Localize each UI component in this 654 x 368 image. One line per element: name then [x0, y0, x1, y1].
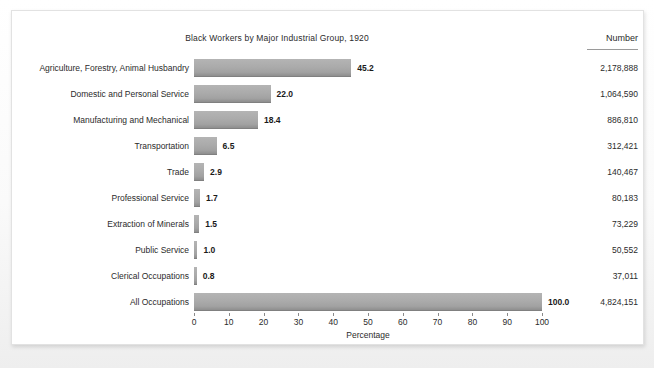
x-axis-tick-label: 40: [318, 317, 348, 327]
bar: [194, 111, 258, 129]
category-label: Public Service: [135, 237, 189, 263]
bar-value-label: 2.9: [210, 163, 222, 181]
x-axis-tick: [542, 313, 543, 316]
bar-container: 45.2: [194, 59, 351, 77]
bar-value-label: 1.5: [205, 215, 217, 233]
bar-value-label: 45.2: [357, 59, 374, 77]
x-axis-tick: [472, 313, 473, 316]
x-axis-tick: [438, 313, 439, 316]
chart-row: Clerical Occupations0.837,011: [194, 263, 642, 289]
bar-container: 1.5: [194, 215, 199, 233]
chart-row: Trade2.9140,467: [194, 159, 642, 185]
bar: [194, 59, 351, 77]
bar-container: 1.0: [194, 241, 197, 259]
x-axis-tick-label: 70: [423, 317, 453, 327]
number-column-rule: [587, 49, 638, 50]
x-axis-tick-label: 0: [179, 317, 209, 327]
bar-value-label: 18.4: [264, 111, 281, 129]
chart-title: Black Workers by Major Industrial Group,…: [12, 33, 542, 43]
bar: [194, 293, 542, 311]
bar-value-label: 1.7: [206, 189, 218, 207]
x-axis-tick: [298, 313, 299, 316]
category-label: Domestic and Personal Service: [70, 81, 189, 107]
number-column-header: Number: [548, 33, 646, 43]
x-axis-tick-label: 60: [388, 317, 418, 327]
row-number-value: 1,064,590: [548, 81, 646, 107]
category-label: Clerical Occupations: [111, 263, 189, 289]
category-label: Transportation: [135, 133, 190, 159]
chart-row: Professional Service1.780,183: [194, 185, 642, 211]
row-number-value: 140,467: [548, 159, 646, 185]
bar: [194, 85, 271, 103]
bar: [194, 163, 204, 181]
row-number-value: 50,552: [548, 237, 646, 263]
bar: [194, 189, 200, 207]
chart-row: Domestic and Personal Service22.01,064,5…: [194, 81, 642, 107]
chart-row: Public Service1.050,552: [194, 237, 642, 263]
x-axis-tick-label: 90: [492, 317, 522, 327]
row-number-value: 73,229: [548, 211, 646, 237]
x-axis-tick: [333, 313, 334, 316]
chart-row: Transportation6.5312,421: [194, 133, 642, 159]
x-axis: Percentage 0102030405060708090100: [194, 313, 542, 343]
bar-container: 1.7: [194, 189, 200, 207]
bar: [194, 137, 217, 155]
bar-container: 0.8: [194, 267, 197, 285]
chart-row: All Occupations100.04,824,151: [194, 289, 642, 315]
category-label: Extraction of Minerals: [107, 211, 189, 237]
x-axis-title: Percentage: [194, 330, 542, 340]
category-label: Agriculture, Forestry, Animal Husbandry: [39, 55, 189, 81]
x-axis-tick-label: 100: [527, 317, 557, 327]
bar-value-label: 22.0: [277, 85, 294, 103]
category-label: Professional Service: [112, 185, 189, 211]
category-label: All Occupations: [130, 289, 189, 315]
bar: [194, 215, 199, 233]
chart-row: Agriculture, Forestry, Animal Husbandry4…: [194, 55, 642, 81]
bar-container: 6.5: [194, 137, 217, 155]
bar-container: 2.9: [194, 163, 204, 181]
x-axis-tick-label: 50: [353, 317, 383, 327]
bar-container: 100.0: [194, 293, 542, 311]
x-axis-tick: [368, 313, 369, 316]
bar-value-label: 1.0: [203, 241, 215, 259]
category-label: Manufacturing and Mechanical: [73, 107, 189, 133]
page-background: Black Workers by Major Industrial Group,…: [0, 0, 654, 368]
chart-card: Black Workers by Major Industrial Group,…: [11, 10, 644, 345]
chart-row: Manufacturing and Mechanical18.4886,810: [194, 107, 642, 133]
x-axis-tick: [194, 313, 195, 316]
bar-container: 18.4: [194, 111, 258, 129]
x-axis-tick: [264, 313, 265, 316]
x-axis-tick-label: 20: [249, 317, 279, 327]
row-number-value: 2,178,888: [548, 55, 646, 81]
bar-value-label: 6.5: [223, 137, 235, 155]
bar-container: 22.0: [194, 85, 271, 103]
chart-row: Extraction of Minerals1.573,229: [194, 211, 642, 237]
x-axis-tick: [507, 313, 508, 316]
x-axis-tick: [403, 313, 404, 316]
x-axis-tick: [229, 313, 230, 316]
x-axis-tick-label: 30: [283, 317, 313, 327]
bar: [194, 241, 197, 259]
row-number-value: 312,421: [548, 133, 646, 159]
category-label: Trade: [167, 159, 189, 185]
bar-value-label: 0.8: [203, 267, 215, 285]
bar: [194, 267, 197, 285]
row-number-value: 4,824,151: [548, 289, 646, 315]
x-axis-tick-label: 10: [214, 317, 244, 327]
x-axis-tick-label: 80: [457, 317, 487, 327]
row-number-value: 80,183: [548, 185, 646, 211]
bar-chart-plot-area: Agriculture, Forestry, Animal Husbandry4…: [194, 55, 542, 313]
row-number-value: 886,810: [548, 107, 646, 133]
row-number-value: 37,011: [548, 263, 646, 289]
